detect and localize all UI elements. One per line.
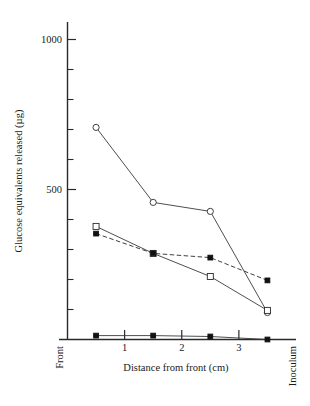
data-point-open-square <box>207 274 213 280</box>
y-axis-title: Glucose equivalents released (µg) <box>13 109 25 252</box>
x-axis-title: Distance from front (cm) <box>123 362 229 374</box>
x-axis-tick-labels: 123 <box>122 342 242 353</box>
data-point-filled-square <box>208 334 213 339</box>
figure-container: 5001000 123 Distance from front (cm) Glu… <box>0 0 310 406</box>
x-axis-inoculum-label: Inoculum <box>287 346 298 386</box>
y-axis-tick-labels: 5001000 <box>41 34 62 195</box>
data-point-filled-square <box>151 251 156 256</box>
glucose-release-line-chart: 5001000 123 Distance from front (cm) Glu… <box>0 0 310 406</box>
data-point-filled-square <box>265 337 270 342</box>
x-tick-label: 3 <box>236 342 241 353</box>
data-point-filled-square <box>265 278 270 283</box>
x-axis-front-label: Front <box>54 346 65 369</box>
data-point-filled-square <box>151 333 156 338</box>
x-axis-ticks <box>125 330 239 340</box>
data-series-layer <box>93 124 271 342</box>
axes-group <box>59 22 296 340</box>
y-axis-ticks <box>68 40 77 310</box>
data-point-open-square <box>264 307 270 313</box>
series-polyline <box>96 234 267 281</box>
data-point-open-circle <box>93 124 99 130</box>
y-tick-label: 1000 <box>41 34 62 45</box>
series-open-circle-series <box>93 124 271 315</box>
data-point-open-circle <box>207 208 213 214</box>
data-point-open-square <box>93 223 99 229</box>
x-tick-label: 2 <box>179 342 184 353</box>
series-open-square-series <box>93 223 270 313</box>
data-point-filled-square <box>94 231 99 236</box>
y-tick-label: 500 <box>46 184 62 195</box>
data-point-filled-square <box>94 333 99 338</box>
x-tick-label: 1 <box>122 342 127 353</box>
data-point-open-circle <box>150 199 156 205</box>
data-point-filled-square <box>208 255 213 260</box>
series-polyline <box>96 127 267 312</box>
series-filled-square-dashed-series <box>94 231 270 283</box>
series-polyline <box>96 226 267 310</box>
